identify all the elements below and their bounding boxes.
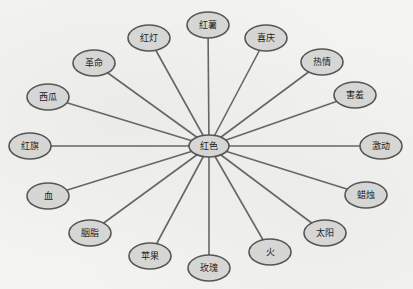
- node-6: 蜡烛: [345, 182, 387, 208]
- node-15: 革命: [73, 50, 115, 76]
- node-13: 红旗: [9, 133, 51, 159]
- node-label: 革命: [85, 57, 103, 68]
- node-1: 红薯: [187, 12, 229, 38]
- node-11: 胭脂: [69, 220, 111, 246]
- node-label: 热情: [313, 56, 331, 67]
- edge-12: [48, 146, 209, 196]
- node-3: 热情: [301, 49, 343, 75]
- node-5: 激动: [360, 133, 402, 159]
- mind-map: 红薯喜庆热情害羞激动蜡烛太阳火玫瑰苹果胭脂血红旗西瓜革命红灯 红色: [0, 0, 413, 289]
- node-7: 太阳: [304, 220, 346, 246]
- node-label: 红旗: [21, 140, 39, 151]
- node-label: 太阳: [316, 227, 334, 238]
- edge-10: [150, 146, 209, 256]
- node-label: 苹果: [141, 250, 159, 261]
- node-16: 红灯: [128, 25, 170, 51]
- center-node-label: 红色: [200, 140, 218, 151]
- edge-4: [209, 95, 355, 146]
- node-label: 西瓜: [39, 92, 57, 102]
- edge-15: [94, 63, 209, 146]
- edge-7: [209, 146, 325, 233]
- node-label: 激动: [372, 140, 390, 151]
- node-10: 苹果: [129, 243, 171, 269]
- node-14: 西瓜: [27, 84, 69, 110]
- node-label: 火: [266, 247, 275, 257]
- edge-3: [209, 62, 322, 146]
- node-label: 喜庆: [257, 32, 275, 43]
- center-node: 红色: [189, 135, 229, 157]
- node-2: 喜庆: [245, 25, 287, 51]
- node-8: 火: [249, 239, 291, 265]
- node-label: 红灯: [140, 32, 158, 43]
- edge-14: [48, 97, 209, 146]
- node-label: 玫瑰: [200, 262, 218, 273]
- node-label: 胭脂: [81, 227, 99, 238]
- node-12: 血: [27, 183, 69, 209]
- node-label: 蜡烛: [357, 189, 375, 200]
- edge-11: [90, 146, 209, 233]
- node-label: 红薯: [199, 19, 217, 30]
- node-4: 害羞: [334, 82, 376, 108]
- node-9: 玫瑰: [188, 255, 230, 281]
- edge-1: [208, 25, 209, 146]
- node-label: 血: [44, 190, 53, 201]
- node-label: 害羞: [346, 89, 364, 100]
